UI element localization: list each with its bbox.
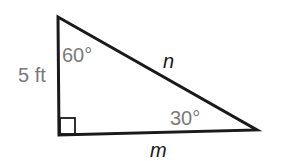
top-angle-label: 60° bbox=[62, 44, 92, 66]
triangle-diagram: 5 ft 60° n 30° m bbox=[0, 0, 283, 161]
hypotenuse-label: n bbox=[163, 50, 174, 72]
triangle-shape bbox=[58, 17, 257, 135]
bottom-leg-label: m bbox=[150, 139, 167, 161]
right-angle-marker bbox=[60, 118, 75, 134]
vertical-leg-label: 5 ft bbox=[18, 64, 46, 86]
bottom-right-angle-label: 30° bbox=[170, 107, 200, 129]
